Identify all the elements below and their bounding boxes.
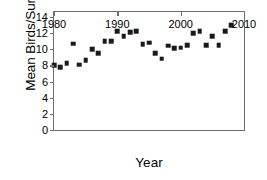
data-point bbox=[90, 47, 95, 52]
data-point bbox=[159, 57, 164, 62]
y-tick-mark bbox=[50, 33, 54, 34]
plot-frame: 024681012141980199020002010 bbox=[53, 11, 245, 131]
data-point bbox=[71, 41, 76, 46]
data-point bbox=[83, 58, 88, 63]
data-point bbox=[166, 43, 171, 48]
y-tick-label: 2 bbox=[42, 108, 48, 120]
data-point bbox=[172, 46, 177, 51]
x-tick-label: 2000 bbox=[168, 18, 192, 30]
data-point bbox=[102, 39, 107, 44]
data-point bbox=[153, 51, 158, 56]
y-tick-label: 6 bbox=[42, 76, 48, 88]
y-tick-label: 10 bbox=[36, 43, 48, 55]
y-tick-mark bbox=[50, 98, 54, 99]
data-point bbox=[64, 61, 69, 66]
y-tick-mark bbox=[50, 130, 54, 131]
data-point bbox=[210, 34, 215, 39]
data-point bbox=[128, 30, 133, 35]
data-point bbox=[121, 34, 126, 39]
data-point bbox=[134, 29, 139, 34]
x-tick-label: 1990 bbox=[105, 18, 129, 30]
x-axis-label: Year bbox=[52, 155, 246, 170]
plot-area bbox=[54, 12, 244, 130]
x-tick-mark bbox=[117, 12, 118, 16]
y-tick-mark bbox=[50, 82, 54, 83]
y-tick-mark bbox=[50, 65, 54, 66]
data-point bbox=[178, 45, 183, 50]
x-tick-mark bbox=[54, 12, 55, 16]
data-point bbox=[204, 43, 209, 48]
y-tick-label: 4 bbox=[42, 92, 48, 104]
chart-container: Mean Birds/Survey 0246810121419801990200… bbox=[0, 0, 267, 180]
x-tick-mark bbox=[244, 12, 245, 16]
data-point bbox=[223, 29, 228, 34]
y-tick-label: 0 bbox=[42, 124, 48, 136]
y-tick-label: 8 bbox=[42, 59, 48, 71]
x-tick-label: 1980 bbox=[42, 18, 66, 30]
data-point bbox=[191, 31, 196, 36]
data-point bbox=[185, 43, 190, 48]
x-tick-label: 2010 bbox=[232, 18, 256, 30]
data-point bbox=[216, 43, 221, 48]
data-point bbox=[197, 29, 202, 34]
y-tick-mark bbox=[50, 49, 54, 50]
y-tick-mark bbox=[50, 114, 54, 115]
data-point bbox=[109, 39, 114, 44]
data-point bbox=[140, 42, 145, 47]
data-point bbox=[58, 65, 63, 70]
data-point bbox=[147, 40, 152, 45]
x-tick-mark bbox=[181, 12, 182, 16]
data-point bbox=[96, 51, 101, 56]
data-point bbox=[77, 62, 82, 67]
